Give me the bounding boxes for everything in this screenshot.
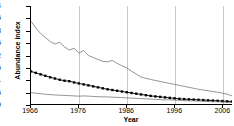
data-point-marker [154,95,156,97]
y-tick-label: 0 [0,101,1,108]
data-point-marker [178,98,180,100]
data-point-marker [59,79,61,81]
x-tick-label: 1986 [106,107,146,114]
data-series-layer [31,6,232,104]
y-tick-label: 1.5 [0,64,1,71]
data-point-marker [169,97,171,99]
y-tick-label: 3 [0,27,1,34]
data-point-marker [78,82,80,84]
data-point-marker [149,95,151,97]
y-tick-mark [26,93,30,94]
data-point-marker [159,96,161,98]
x-tick-mark [174,105,175,108]
data-point-marker [202,99,204,101]
x-tick-mark [30,105,31,108]
y-tick-mark [26,18,30,19]
data-point-marker [49,76,51,78]
y-tick-label: 1 [0,76,1,83]
data-point-marker [207,99,209,101]
y-tick-label: 2 [0,52,1,59]
series-line-upper-confidence-bound [31,21,232,96]
x-tick-mark [126,105,127,108]
data-point-marker [135,93,137,95]
data-point-marker [197,99,199,101]
y-tick-mark [26,56,30,57]
data-point-marker [183,98,185,100]
data-point-marker [102,87,104,89]
data-point-marker [130,92,132,94]
x-tick-mark [78,105,79,108]
data-point-marker [173,97,175,99]
y-tick-mark [26,68,30,69]
data-point-marker [68,80,70,82]
y-tick-mark [26,31,30,32]
data-point-marker [97,86,99,88]
y-tick-label: 4 [0,2,1,9]
y-tick-mark [26,43,30,44]
data-point-marker [116,90,118,92]
data-point-marker [106,88,108,90]
y-axis-title: Abundance index [14,3,21,99]
x-tick-label: 1996 [154,107,194,114]
data-point-marker [92,85,94,87]
abundance-index-chart: Abundance index 00.511.522.533.54 196619… [0,0,234,126]
y-tick-label: 3.5 [0,14,1,21]
data-point-marker [193,98,195,100]
x-tick-mark [222,105,223,108]
data-point-marker [145,94,147,96]
y-tick-mark [26,6,30,7]
y-tick-label: 2.5 [0,39,1,46]
data-point-marker [63,80,65,82]
data-point-marker [87,84,89,86]
data-point-marker [54,77,56,79]
data-point-marker [188,98,190,100]
x-axis-title: Year [30,116,232,123]
plot-area [30,6,232,105]
data-point-marker [44,75,46,77]
data-point-marker [140,93,142,95]
data-point-marker [73,81,75,83]
y-tick-label: 0.5 [0,89,1,96]
x-tick-label: 2006 [202,107,234,114]
data-point-marker [126,91,128,93]
data-point-marker [164,96,166,98]
data-point-marker [121,90,123,92]
y-tick-mark [26,80,30,81]
data-point-marker [212,99,214,101]
data-point-marker [39,73,41,75]
data-point-marker [35,72,37,74]
x-tick-label: 1966 [10,107,50,114]
series-line-abundance-index-estimate [31,71,232,101]
x-tick-label: 1976 [58,107,98,114]
data-point-marker [111,89,113,91]
data-point-marker [31,70,32,72]
data-point-marker [82,83,84,85]
